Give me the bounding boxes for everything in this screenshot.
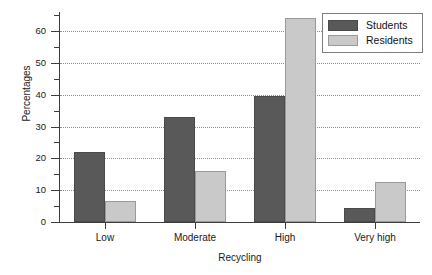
y-tick-minor [54,174,59,175]
y-tick-major [51,190,59,191]
legend-swatch-residents-icon [328,35,358,46]
y-tick-label: 0 [6,217,46,227]
y-tick-label: 10 [6,185,46,195]
x-axis-line [59,222,420,223]
bar-moderate-students [164,117,195,222]
legend-swatch-students-icon [328,20,358,31]
bar-chart: Percentages Recycling 0102030405060 LowM… [0,0,432,275]
x-tick [375,222,376,229]
x-tick [105,222,106,229]
y-tick-label: 60 [6,26,46,36]
y-tick-major [51,158,59,159]
y-tick-minor [54,47,59,48]
x-tick-label: Very high [330,233,420,243]
y-tick-minor [54,79,59,80]
x-tick-label: Moderate [150,233,240,243]
y-tick-label: 40 [6,90,46,100]
y-tick-major [51,222,59,223]
bar-very-high-students [344,208,375,222]
gridline [60,63,420,64]
bar-high-residents [285,18,316,222]
bar-very-high-residents [375,182,406,222]
y-tick-label: 20 [6,153,46,163]
x-axis-title: Recycling [60,252,420,263]
y-tick-major [51,127,59,128]
legend: Students Residents [322,13,423,53]
bar-high-students [254,96,285,222]
y-tick-minor [54,142,59,143]
y-tick-major [51,95,59,96]
bar-moderate-residents [195,171,226,222]
x-tick-label: High [240,233,330,243]
gridline [60,127,420,128]
legend-label-residents: Residents [366,35,413,46]
gridline [60,95,420,96]
x-tick [195,222,196,229]
bar-low-residents [105,201,136,222]
bar-low-students [74,152,105,222]
y-tick-minor [54,15,59,16]
x-tick [285,222,286,229]
legend-label-students: Students [366,20,407,31]
legend-entry-students: Students [328,18,417,33]
gridline [60,158,420,159]
y-tick-label: 50 [6,58,46,68]
legend-entry-residents: Residents [328,33,417,48]
y-tick-minor [54,206,59,207]
x-tick-label: Low [60,233,150,243]
y-tick-major [51,63,59,64]
y-tick-label: 30 [6,122,46,132]
y-tick-minor [54,111,59,112]
y-tick-major [51,31,59,32]
gridline [60,190,420,191]
